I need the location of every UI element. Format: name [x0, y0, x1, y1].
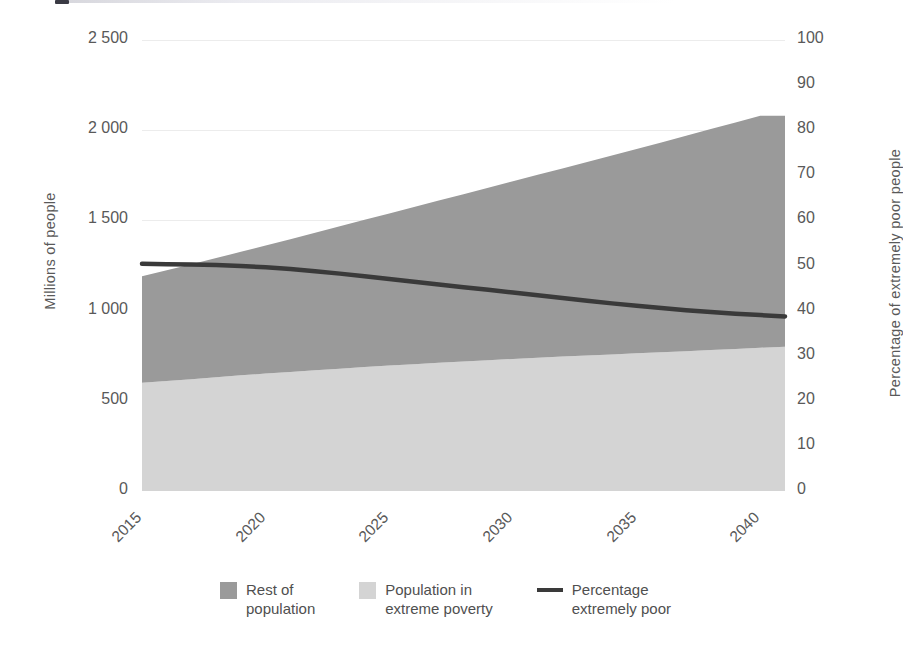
left-axis-tick-label: 2 500: [48, 29, 128, 47]
left-axis-tick-label: 0: [48, 480, 128, 498]
gridline: [142, 220, 785, 221]
x-axis-tick-label: 2015: [108, 509, 145, 546]
right-axis-tick-label: 20: [797, 390, 857, 408]
x-axis-tick-label: 2025: [355, 509, 392, 546]
area-rest-of-population: [142, 116, 785, 383]
right-axis-tick-label: 70: [797, 164, 857, 182]
right-axis-tick-label: 100: [797, 29, 857, 47]
left-axis-tick-label: 2 000: [48, 119, 128, 137]
right-axis-tick-label: 80: [797, 119, 857, 137]
top-edge-artifact-mark: [55, 0, 69, 4]
line-percentage-extremely-poor: [142, 264, 785, 317]
legend-item[interactable]: Population in extreme poverty: [359, 580, 493, 618]
top-edge-artifact: [55, 0, 675, 3]
right-axis-title: Percentage of extremely poor people: [887, 73, 903, 473]
right-axis-tick-label: 30: [797, 345, 857, 363]
right-axis-tick-label: 50: [797, 255, 857, 273]
legend-item[interactable]: Rest of population: [220, 580, 315, 618]
left-axis-tick-label: 1 500: [48, 209, 128, 227]
right-axis-tick-label: 0: [797, 480, 857, 498]
right-axis-tick-label: 60: [797, 209, 857, 227]
legend-color-swatch: [220, 582, 237, 599]
area-extreme-poverty: [142, 347, 785, 491]
left-axis-title: Millions of people: [42, 141, 58, 361]
legend-label: Percentage extremely poor: [572, 580, 671, 618]
legend-label: Population in extreme poverty: [385, 580, 493, 618]
gridline: [142, 401, 785, 402]
gridline: [142, 130, 785, 131]
right-axis-tick-label: 90: [797, 74, 857, 92]
left-axis-tick-label: 1 000: [48, 300, 128, 318]
x-axis-tick-label: 2030: [479, 509, 516, 546]
gridline: [142, 40, 785, 41]
left-axis-tick-label: 500: [48, 390, 128, 408]
x-axis-tick-label: 2035: [603, 509, 640, 546]
legend-label: Rest of population: [246, 580, 315, 618]
right-axis-tick-label: 40: [797, 300, 857, 318]
legend-item[interactable]: Percentage extremely poor: [537, 580, 671, 618]
gridline: [142, 311, 785, 312]
x-axis-tick-label: 2040: [726, 509, 763, 546]
x-axis-tick-label: 2020: [232, 509, 269, 546]
legend-color-swatch: [359, 582, 376, 599]
chart-legend: Rest of populationPopulation in extreme …: [0, 580, 891, 618]
right-axis-tick-label: 10: [797, 435, 857, 453]
legend-line-marker: [537, 588, 563, 592]
